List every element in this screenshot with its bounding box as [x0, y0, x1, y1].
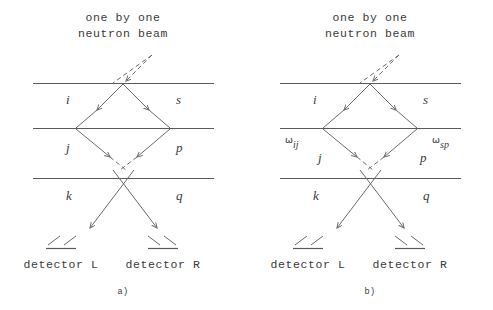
panel-a-source-title-line1: one by one	[85, 11, 160, 24]
panel-b-phase-label-left: ω ij	[285, 134, 299, 150]
panel-a-ray-i-cont	[76, 110, 97, 128]
panel-b-detector-left-label: detector L	[270, 258, 345, 271]
panel-b-label-i: i	[313, 92, 317, 107]
panel-a-detector-right-symbol	[148, 236, 178, 249]
panel-b-caption: b)	[364, 287, 375, 297]
panel-a-ray-p	[137, 129, 170, 157]
panel-b-ray-i-arrow	[344, 84, 370, 110]
panel-a-label-q: q	[176, 188, 183, 203]
panel-b-omega-right-sub: sp	[440, 139, 449, 150]
panel-a-ray-p-dash	[120, 157, 137, 170]
panel-b-omega-left-sub: ij	[293, 139, 299, 150]
panel-a-incoming-beam	[126, 55, 152, 81]
panel-b-label-s: s	[423, 92, 428, 107]
panel-b-incoming-beam	[373, 55, 399, 81]
panel-a-ray-s-cont	[149, 110, 170, 128]
panel-b-ray-s-cont	[396, 110, 417, 128]
panel-b: one by one neutron beam i s ω ij	[270, 11, 461, 297]
panel-b-ray-j	[323, 129, 357, 157]
panel-a-caption: a)	[117, 287, 128, 297]
panel-b-omega-right-base: ω	[432, 134, 440, 145]
panel-b-ray-i-cont	[323, 110, 344, 128]
panel-a-label-j: j	[64, 140, 70, 155]
panel-a-ray-j-dash	[110, 157, 126, 170]
panel-a-ray-s-arrow	[123, 84, 149, 110]
panel-b-detector-right-symbol	[395, 236, 425, 249]
panel-a-detector-left-symbol	[46, 236, 76, 249]
panel-b-ray-p	[384, 129, 417, 157]
panel-a-incoming-beam-tail	[113, 55, 152, 83]
panel-b-phase-label-right: ω sp	[432, 134, 449, 150]
panel-b-ray-s-arrow	[370, 84, 396, 110]
panel-b-label-p: p	[419, 150, 427, 165]
panel-a-ray-j	[76, 129, 110, 157]
panel-b-ray-j-dash	[357, 157, 373, 170]
panel-a-detector-left-label: detector L	[23, 258, 98, 271]
panel-b-source-title-line2: neutron beam	[325, 27, 415, 40]
panel-b-detector-left-symbol	[293, 236, 323, 249]
panel-a-label-p: p	[175, 140, 183, 155]
panel-a-label-k: k	[66, 188, 72, 203]
panel-b-label-q: q	[423, 188, 430, 203]
panel-b-source-title-line1: one by one	[332, 11, 407, 24]
panel-a-label-i: i	[66, 92, 70, 107]
panel-b-detector-right-label: detector R	[372, 258, 447, 271]
panel-a-label-s: s	[176, 92, 181, 107]
panel-b-incoming-beam-tail	[360, 55, 399, 83]
panel-a: one by one neutron beam i s j	[23, 11, 214, 297]
panel-b-omega-left-base: ω	[285, 134, 293, 145]
panel-a-detector-right-label: detector R	[125, 258, 200, 271]
panel-b-ray-p-dash	[367, 157, 384, 170]
neutron-interferometer-figure: one by one neutron beam i s j	[0, 0, 493, 310]
panel-a-ray-i-arrow	[97, 84, 123, 110]
figure-svg: one by one neutron beam i s j	[0, 0, 493, 310]
panel-b-label-j: j	[316, 150, 322, 165]
panel-b-label-k: k	[313, 188, 319, 203]
panel-a-source-title-line2: neutron beam	[78, 27, 168, 40]
